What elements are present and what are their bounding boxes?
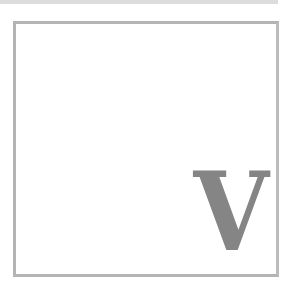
card-letter: V [194, 162, 259, 262]
top-strip [0, 0, 278, 4]
